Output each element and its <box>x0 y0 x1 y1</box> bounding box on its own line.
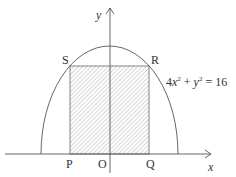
x-axis-label: x <box>208 161 213 173</box>
shaded-rectangle-pqrs <box>70 66 149 154</box>
diagram-svg <box>0 0 236 177</box>
point-label-q: Q <box>146 158 155 170</box>
eq-rhs: = 16 <box>202 75 227 89</box>
point-label-s: S <box>62 54 69 66</box>
diagram-canvas: y x S R P O Q 4x2 + y2 = 16 <box>0 0 236 177</box>
point-label-p: P <box>66 158 73 170</box>
point-label-o: O <box>98 158 107 170</box>
y-axis-label: y <box>96 9 101 21</box>
point-label-r: R <box>151 54 159 66</box>
eq-plus: + <box>181 75 194 89</box>
ellipse-equation-label: 4x2 + y2 = 16 <box>166 76 227 88</box>
